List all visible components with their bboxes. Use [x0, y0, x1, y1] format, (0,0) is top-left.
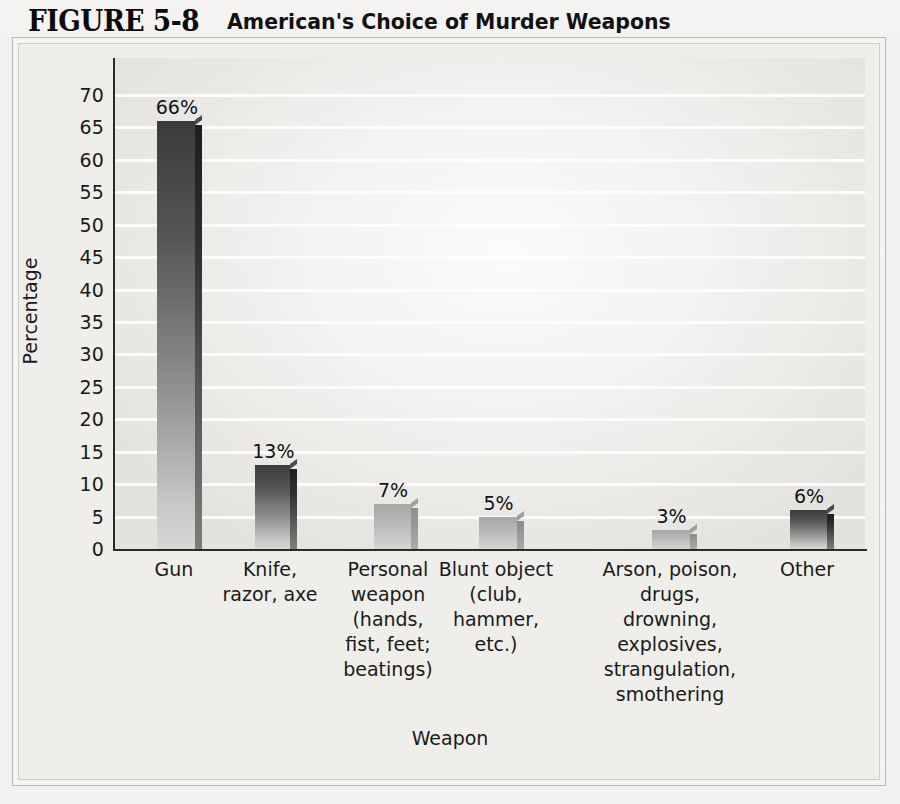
x-label-line: Other — [748, 557, 866, 582]
y-tick-label: 30 — [64, 343, 104, 365]
gridline — [115, 321, 865, 324]
y-tick-label: 55 — [64, 181, 104, 203]
bar-top-face — [690, 524, 697, 534]
bar-side-face — [517, 521, 524, 549]
y-tick-label: 10 — [64, 473, 104, 495]
y-tick-label: 60 — [64, 149, 104, 171]
bar-top-face — [827, 504, 834, 514]
bar-1: 66% — [157, 121, 195, 549]
x-label-line: drowning, — [578, 607, 762, 632]
y-axis-title: Percentage — [19, 251, 41, 371]
figure-title-bar: FIGURE 5-8 American's Choice of Murder W… — [0, 0, 900, 37]
bar-value-label: 6% — [794, 485, 824, 507]
x-label-line: Knife, — [205, 557, 335, 582]
x-axis-line — [113, 549, 867, 551]
gridline — [115, 386, 865, 389]
x-label-line: hammer, — [422, 607, 570, 632]
bar-5: 3% — [652, 530, 690, 549]
bar-side-face — [827, 514, 834, 549]
gridline — [115, 159, 865, 162]
y-tick-label: 35 — [64, 311, 104, 333]
y-tick-label: 20 — [64, 408, 104, 430]
bar-4: 5% — [479, 517, 517, 549]
bar-body — [479, 517, 517, 549]
y-tick-label: 25 — [64, 376, 104, 398]
gridline — [115, 256, 865, 259]
gridline — [115, 353, 865, 356]
x-label-line: Blunt object — [422, 557, 570, 582]
bar-6: 6% — [790, 510, 827, 549]
gridline — [115, 126, 865, 129]
bar-body — [157, 121, 195, 549]
y-tick-label: 40 — [64, 279, 104, 301]
bar-value-label: 5% — [484, 492, 514, 514]
gridline — [115, 191, 865, 194]
y-tick-label: 65 — [64, 116, 104, 138]
x-label-line: explosives, — [578, 632, 762, 657]
x-label-line: smothering — [578, 682, 762, 707]
x-axis-title: Weapon — [0, 727, 900, 749]
x-label-2: Knife,razor, axe — [205, 557, 335, 607]
x-label-line: strangulation, — [578, 657, 762, 682]
bar-body — [374, 504, 411, 549]
y-tick-label: 15 — [64, 441, 104, 463]
gridline — [115, 224, 865, 227]
bar-side-face — [290, 469, 297, 549]
bar-body — [790, 510, 827, 549]
bar-2: 13% — [255, 465, 290, 549]
bar-value-label: 13% — [252, 440, 294, 462]
x-axis-category-labels: GunKnife,razor, axePersonalweapon(hands,… — [113, 557, 867, 742]
y-tick-label: 5 — [64, 506, 104, 528]
figure-title: American's Choice of Murder Weapons — [227, 6, 671, 37]
bar-side-face — [411, 508, 418, 549]
y-tick-label: 70 — [64, 84, 104, 106]
plot-area: 66%13%7%5%3%6% — [113, 58, 865, 549]
gridline — [115, 289, 865, 292]
bar-value-label: 3% — [657, 505, 687, 527]
x-label-line: drugs, — [578, 582, 762, 607]
y-tick-label: 45 — [64, 246, 104, 268]
gridline — [115, 418, 865, 421]
gridline — [115, 94, 865, 97]
x-label-line: Arson, poison, — [578, 557, 762, 582]
x-label-5: Arson, poison,drugs,drowning,explosives,… — [578, 557, 762, 707]
bar-body — [255, 465, 290, 549]
x-label-6: Other — [748, 557, 866, 582]
bar-top-face — [411, 498, 418, 508]
x-label-line: beatings) — [317, 657, 459, 682]
bar-3: 7% — [374, 504, 411, 549]
bar-side-face — [690, 534, 697, 549]
bar-value-label: 66% — [156, 96, 198, 118]
y-tick-label: 50 — [64, 214, 104, 236]
bar-value-label: 7% — [378, 479, 408, 501]
x-label-line: etc.) — [422, 632, 570, 657]
bar-side-face — [195, 125, 202, 549]
y-axis-ticks: 7065605550454035302520151050 — [58, 0, 104, 804]
x-label-4: Blunt object(club,hammer,etc.) — [422, 557, 570, 657]
bar-top-face — [517, 511, 524, 521]
x-label-line: (club, — [422, 582, 570, 607]
y-tick-label: 0 — [64, 538, 104, 560]
x-label-line: razor, axe — [205, 582, 335, 607]
gridline — [115, 451, 865, 454]
gridline — [115, 483, 865, 486]
figure-number: FIGURE 5-8 — [28, 5, 199, 37]
bar-body — [652, 530, 690, 549]
